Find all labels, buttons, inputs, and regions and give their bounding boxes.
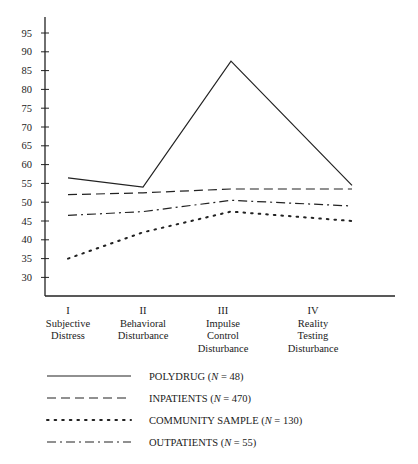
y-tick-label: 75 (22, 103, 33, 114)
category-label: I (66, 305, 70, 316)
legend: POLYDRUG (N = 48)INPATIENTS (N = 470)COM… (47, 371, 303, 449)
y-tick-label: 80 (22, 84, 33, 95)
category-label: III (218, 305, 229, 316)
axes: 3035404550556065707580859095 (22, 17, 396, 296)
category-label: Impulse (206, 318, 240, 329)
category-label: Subjective (46, 318, 91, 329)
legend-label: POLYDRUG (N = 48) (149, 371, 244, 383)
category-label: Disturbance (118, 330, 169, 341)
legend-label: INPATIENTS (N = 470) (149, 393, 252, 405)
series-line-outpatients (68, 200, 352, 215)
category-label: Testing (298, 330, 330, 341)
category-labels: ISubjectiveDistressIIBehavioralDisturban… (46, 305, 339, 354)
category-label: Reality (298, 318, 329, 329)
legend-label: COMMUNITY SAMPLE (N = 130) (149, 415, 303, 427)
legend-label: OUTPATIENTS (N = 55) (149, 437, 257, 449)
category-label: II (140, 305, 147, 316)
y-tick-label: 50 (22, 197, 33, 208)
line-chart: 3035404550556065707580859095 ISubjective… (0, 0, 418, 464)
category-label: Disturbance (198, 343, 249, 354)
y-tick-label: 90 (22, 46, 33, 57)
category-label: IV (307, 305, 318, 316)
series-line-community-sample (68, 212, 352, 259)
y-tick-label: 45 (22, 216, 33, 227)
category-label: Disturbance (288, 343, 339, 354)
y-tick-label: 85 (22, 65, 33, 76)
series-line-polydrug (68, 61, 352, 187)
category-label: Control (207, 330, 239, 341)
category-label: Behavioral (120, 318, 166, 329)
y-tick-label: 55 (22, 178, 33, 189)
series-line-inpatients (68, 189, 352, 195)
y-tick-label: 30 (22, 272, 33, 283)
y-tick-label: 35 (22, 253, 33, 264)
y-tick-label: 40 (22, 234, 33, 245)
series-lines (68, 61, 352, 258)
category-label: Distress (51, 330, 85, 341)
y-tick-label: 70 (22, 122, 33, 133)
y-tick-label: 95 (22, 28, 33, 39)
y-tick-label: 60 (22, 159, 33, 170)
y-tick-label: 65 (22, 140, 33, 151)
